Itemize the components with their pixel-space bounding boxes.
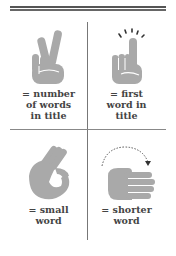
caption-line: word [88,215,165,226]
caption-small-word: = small word [10,204,87,226]
caption-line: in title [10,110,87,121]
cell-shorter-word: = shorter word [88,142,165,226]
flat-hand-arrow-icon [94,142,160,202]
top-rule [10,6,166,8]
cell-first-word: = first word in title [88,28,165,121]
index-finger-up-hand-icon [97,28,157,86]
ok-sign-hand-icon [19,142,79,202]
caption-line: title [88,110,165,121]
caption-line: word [10,215,87,226]
caption-line: = shorter [88,204,165,215]
top-rule-second [10,9,166,11]
peace-sign-hand-icon [19,28,79,86]
caption-first-word: = first word in title [88,88,165,121]
caption-number-of-words: = number of words in title [10,88,87,121]
caption-line: = number [10,88,87,99]
horizontal-divider [10,129,166,130]
cell-number-of-words: = number of words in title [10,28,87,121]
caption-line: = first [88,88,165,99]
cell-small-word: = small word [10,142,87,226]
caption-line: = small [10,204,87,215]
caption-line: of words [10,99,87,110]
caption-shorter-word: = shorter word [88,204,165,226]
caption-line: word in [88,99,165,110]
